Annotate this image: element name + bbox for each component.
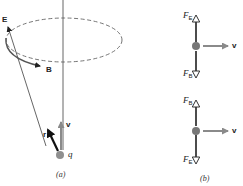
panel-a — [6, 0, 122, 159]
charge-dot-bottom — [192, 127, 200, 135]
b-vector — [6, 38, 40, 66]
panel-b-top — [192, 22, 228, 71]
diagram-canvas — [0, 0, 243, 186]
r-vector — [48, 130, 58, 151]
label-v: v — [66, 121, 70, 129]
label-fb-bottom: FB — [183, 96, 193, 106]
label-fb-top: FB — [183, 69, 193, 79]
label-r: r — [43, 131, 46, 139]
label-fe-top: FE — [183, 11, 193, 21]
label-v-top: v — [232, 42, 236, 50]
charge-q — [56, 151, 64, 159]
charge-dot-top — [192, 42, 200, 50]
caption-b: (b) — [200, 175, 209, 183]
panel-b-bottom — [192, 107, 228, 157]
label-fe-bottom: FE — [183, 155, 193, 165]
label-e: E — [2, 16, 7, 24]
orbit-ellipse — [6, 18, 122, 62]
label-v-bottom: v — [232, 127, 236, 135]
e-vector — [8, 27, 46, 146]
caption-a: (a) — [56, 171, 65, 179]
label-b: B — [46, 66, 52, 74]
label-q: q — [68, 150, 73, 159]
